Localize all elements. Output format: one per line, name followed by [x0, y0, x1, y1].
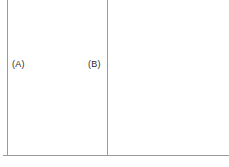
- horizontal-baseline: [3, 155, 229, 156]
- region-a: [8, 0, 107, 155]
- left-vertical-line: [7, 0, 8, 156]
- region-b: [108, 0, 229, 155]
- line-diagram-canvas: (A) (B): [0, 0, 229, 167]
- middle-vertical-line: [107, 0, 108, 156]
- region-label-b: (B): [88, 60, 101, 69]
- region-label-a: (A): [12, 60, 25, 69]
